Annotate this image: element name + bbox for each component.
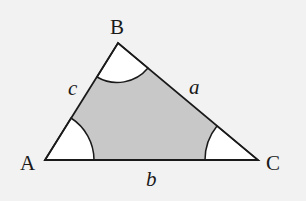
triangle-diagram: B A C c a b xyxy=(0,0,306,201)
side-label-c: c xyxy=(68,76,78,100)
vertex-label-b: B xyxy=(110,15,124,39)
angle-c-sector xyxy=(205,126,258,160)
side-label-b: b xyxy=(146,167,157,191)
side-label-a: a xyxy=(189,75,200,99)
vertex-label-c: C xyxy=(266,151,280,175)
vertex-label-a: A xyxy=(20,151,36,175)
